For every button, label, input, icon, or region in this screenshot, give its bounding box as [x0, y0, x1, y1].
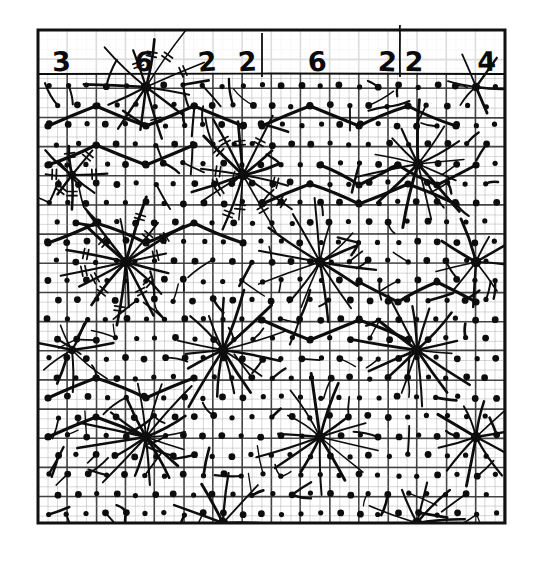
lattice-dot: [240, 511, 247, 518]
lattice-dot: [492, 316, 499, 323]
lattice-dot: [131, 454, 138, 461]
lattice-dot: [192, 337, 197, 342]
lattice-dot: [171, 181, 176, 186]
lattice-dot: [433, 316, 438, 321]
zigzag-node: [239, 122, 246, 129]
lattice-dot: [357, 395, 362, 400]
lattice-dot: [221, 201, 228, 208]
lattice-dot: [415, 277, 422, 284]
zigzag-node: [306, 336, 313, 343]
lattice-dot: [181, 239, 186, 244]
lattice-dot: [472, 395, 479, 402]
lattice-dot: [414, 474, 419, 479]
lattice-dot: [336, 277, 343, 284]
lattice-dot: [114, 181, 121, 188]
lattice-dot: [161, 510, 166, 515]
lattice-dot: [112, 297, 119, 304]
lattice-dot: [75, 491, 82, 498]
lattice-dot: [475, 356, 480, 361]
lattice-dot: [493, 395, 500, 402]
lattice-dot: [102, 121, 109, 128]
lattice-dot: [317, 317, 324, 324]
lattice-dot: [298, 472, 303, 477]
lattice-dot: [444, 219, 449, 224]
lattice-dot: [200, 396, 205, 401]
lattice-dot: [318, 396, 323, 401]
lattice-dot: [64, 393, 71, 400]
lattice-dot: [189, 298, 196, 305]
lattice-dot: [65, 200, 70, 205]
lattice-dot: [346, 182, 351, 187]
lattice-dot: [348, 454, 353, 459]
lattice-dot: [229, 453, 236, 460]
lattice-dot: [55, 492, 62, 499]
lattice-dot: [443, 376, 448, 381]
starburst-ray: [195, 523, 223, 568]
lattice-dot: [64, 278, 69, 283]
connector-stroke: [348, 397, 349, 417]
lattice-dot: [426, 374, 431, 379]
lattice-dot: [72, 259, 79, 266]
lattice-dot: [386, 140, 393, 147]
lattice-dot: [133, 493, 138, 498]
starburst-ray: [222, 298, 223, 350]
lattice-dot: [74, 101, 81, 108]
lattice-dot: [394, 393, 401, 400]
lattice-dot: [483, 413, 488, 418]
lattice-dot: [181, 315, 188, 322]
lattice-dot: [307, 141, 314, 148]
lattice-dot: [367, 298, 374, 305]
lattice-dot: [346, 142, 351, 147]
connector-stroke: [183, 279, 184, 291]
lattice-dot: [171, 257, 178, 264]
lattice-dot: [229, 258, 236, 265]
lattice-dot: [385, 179, 390, 184]
lattice-dot: [299, 82, 306, 89]
lattice-dot: [161, 395, 166, 400]
lattice-dot: [357, 84, 362, 89]
lattice-dot: [338, 432, 345, 439]
lattice-dot: [494, 510, 499, 515]
lattice-dot: [152, 491, 159, 498]
lattice-dot: [220, 84, 225, 89]
lattice-dot: [219, 394, 226, 401]
hub-center-dot: [471, 432, 481, 442]
zigzag-node: [142, 161, 149, 168]
zigzag-node: [190, 219, 197, 226]
hub-center-dot: [218, 345, 228, 355]
lattice-dot: [423, 257, 430, 264]
lattice-dot: [414, 394, 419, 399]
lattice-dot: [454, 355, 461, 362]
lattice-dot: [220, 279, 225, 284]
lattice-dot: [396, 434, 403, 441]
lattice-dot: [104, 200, 109, 205]
lattice-dot: [104, 357, 109, 362]
digit-label-0: 3: [51, 46, 71, 78]
lattice-dot: [151, 375, 156, 380]
lattice-dot: [425, 140, 432, 147]
lattice-dot: [199, 433, 206, 440]
lattice-dot: [482, 218, 487, 223]
hatch-tick: [235, 145, 245, 146]
lattice-dot: [84, 238, 91, 245]
digit-label-4: 6: [307, 45, 328, 77]
lattice-dot: [386, 336, 393, 343]
digit-label-2: 2: [197, 45, 218, 77]
lattice-dot: [327, 101, 334, 108]
lattice-dot: [434, 433, 441, 440]
lattice-dot: [63, 239, 70, 246]
lattice-dot: [338, 160, 343, 165]
lattice-dot: [209, 220, 214, 225]
lattice-dot: [288, 104, 293, 109]
lattice-dot: [298, 395, 303, 400]
lattice-dot: [210, 454, 215, 459]
lattice-dot: [260, 82, 265, 87]
starburst-ray: [192, 523, 223, 533]
lattice-dot: [172, 414, 179, 421]
lattice-dot: [474, 123, 479, 128]
lattice-dot: [191, 492, 196, 497]
lattice-dot: [83, 511, 88, 516]
lattice-dot: [218, 432, 225, 439]
lattice-dot: [105, 395, 110, 400]
hub-center-dot: [472, 83, 480, 91]
